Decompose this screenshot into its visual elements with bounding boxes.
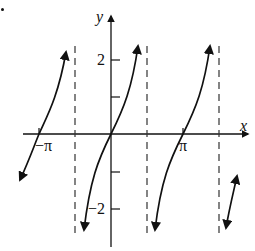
y-axis-label: y bbox=[96, 9, 103, 25]
x-tick-label-neg-pi: −π bbox=[35, 138, 52, 154]
tangent-plot bbox=[0, 0, 255, 251]
tan-branch-4 bbox=[226, 176, 237, 228]
x-axis-label: x bbox=[240, 118, 247, 134]
y-tick-label-2: 2 bbox=[97, 52, 105, 68]
y-tick-label-neg2: −2 bbox=[88, 201, 105, 217]
x-tick-label-pi: π bbox=[179, 138, 187, 154]
tan-branch-1 bbox=[20, 52, 66, 180]
